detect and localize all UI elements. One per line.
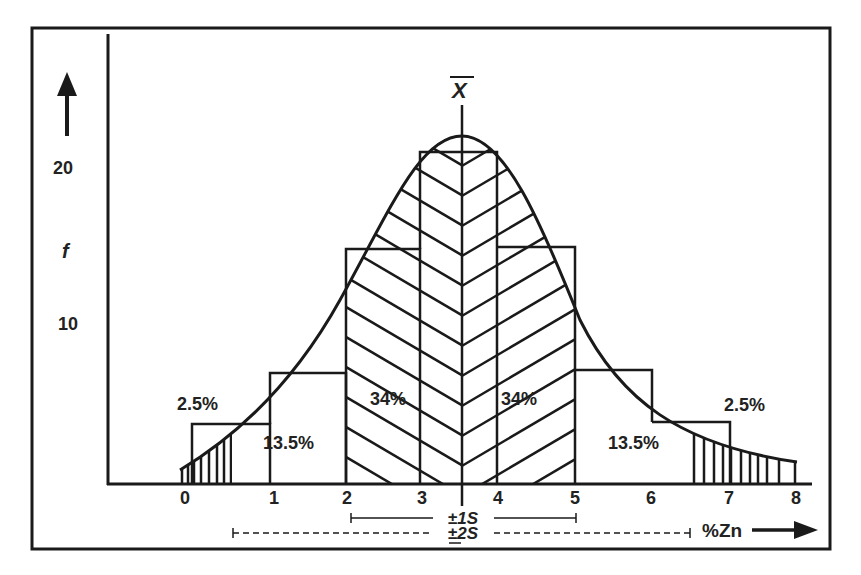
label-left-tail: 2.5%: [177, 394, 218, 414]
x-tick-8: 8: [791, 488, 801, 508]
chart-frame: [32, 28, 830, 549]
y-arrow-icon: [57, 72, 77, 136]
x-tick-2: 2: [342, 488, 352, 508]
x-tick-6: 6: [646, 488, 656, 508]
x-tick-1: 1: [269, 488, 279, 508]
x-tick-labels: 0 1 2 3 4 5 6 7 8: [180, 488, 801, 508]
x-tick-7: 7: [724, 488, 734, 508]
normal-distribution-histogram: X 20 f 10 2.5% 13.5% 34% 34% 13.5% 2.5% …: [0, 0, 861, 575]
y-tick-10: 10: [58, 314, 78, 334]
hatch-left-34: [300, 40, 470, 560]
label-right-mid: 13.5%: [608, 433, 659, 453]
y-axis-label: f: [62, 240, 71, 262]
label-right-34: 34%: [501, 389, 537, 409]
y-tick-20: 20: [53, 158, 73, 178]
label-left-34: 34%: [370, 389, 406, 409]
x-tick-4: 4: [493, 488, 503, 508]
bar-5: [575, 370, 652, 422]
x-tick-0: 0: [180, 488, 190, 508]
x-tick-5: 5: [570, 488, 580, 508]
label-left-mid: 13.5%: [263, 433, 314, 453]
two-sigma-label: ±2S: [448, 524, 479, 543]
x-tick-3: 3: [417, 488, 427, 508]
label-right-tail: 2.5%: [724, 395, 765, 415]
x-arrow-icon: [752, 521, 818, 539]
x-axis-label: %Zn: [702, 520, 742, 541]
bar-1: [270, 373, 346, 484]
hatch-right-34: [455, 40, 625, 560]
mean-label: X: [450, 78, 468, 103]
